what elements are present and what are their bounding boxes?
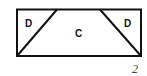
label-center-c: C	[75, 28, 82, 39]
label-left-d: D	[25, 18, 32, 29]
trapezoid-diagram: D C D 2	[0, 0, 147, 76]
right-diagonal	[100, 10, 141, 57]
label-right-d: D	[124, 18, 131, 29]
figure-number: 2	[132, 62, 138, 76]
left-diagonal	[17, 10, 57, 57]
